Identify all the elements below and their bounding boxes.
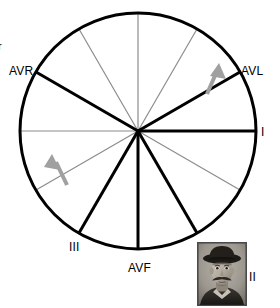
- major-axis-lead-III: [79, 131, 138, 233]
- label-lead-avr: AVR: [9, 65, 33, 77]
- label-lead-avl: AVL: [241, 65, 263, 77]
- major-axis-lead-aVR: [36, 72, 138, 131]
- label-lead-ii: II: [249, 271, 256, 283]
- arrow-lower-left: [44, 154, 67, 185]
- label-lead-iii: III: [69, 241, 80, 253]
- portrait-inset: [197, 242, 247, 306]
- major-axis-lead-II: [138, 131, 197, 233]
- minor-axis-neg60: [138, 29, 197, 131]
- arrow-upper-right: [207, 63, 226, 94]
- minor-axis-30: [138, 131, 240, 190]
- label-lead-i: I: [261, 126, 265, 138]
- label-clipped-left: r: [0, 41, 2, 52]
- major-axis-group: [36, 72, 256, 249]
- minor-axis-neg120: [79, 29, 138, 131]
- label-lead-avf: AVF: [128, 262, 151, 274]
- figure-canvas: AVR AVL I III AVF II r: [0, 0, 280, 308]
- major-axis-lead-aVL: [138, 72, 240, 131]
- portrait-image: [198, 243, 246, 305]
